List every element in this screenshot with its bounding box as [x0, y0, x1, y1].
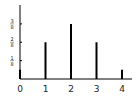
y-tick-denominator: 8	[10, 24, 13, 30]
y-tick-denominator: 8	[10, 42, 13, 48]
x-tick-label: 0	[17, 84, 23, 94]
x-tick-label: 3	[94, 84, 100, 94]
x-tick-labels: 01234	[17, 84, 125, 94]
x-tick-label: 2	[68, 84, 74, 94]
probability-mass-chart: 01234 182838	[0, 0, 135, 97]
x-tick-label: 4	[119, 84, 125, 94]
y-tick-denominator: 8	[10, 61, 13, 67]
stems	[20, 24, 122, 79]
axes	[20, 5, 132, 79]
x-tick-label: 1	[43, 84, 49, 94]
chart-canvas: 01234 182838	[0, 0, 135, 97]
